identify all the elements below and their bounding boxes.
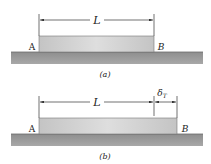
thermal-expansion-diagram: L A B (a) L δT A B (b): [0, 0, 211, 164]
point-label-A-b: A: [28, 124, 36, 134]
point-label-A-a: A: [28, 42, 36, 52]
caption-a: (a): [99, 70, 110, 79]
ground-b: [11, 134, 203, 146]
figure-a: L A B (a): [11, 14, 203, 79]
length-label-b: L: [92, 96, 100, 109]
ground-a: [11, 52, 203, 64]
bar-a: [39, 36, 154, 52]
length-label-a: L: [92, 14, 100, 27]
bar-b: [39, 118, 177, 134]
figure-b: L δT A B (b): [11, 88, 203, 161]
elongation-label-b: δT: [157, 88, 167, 99]
point-label-B-a: B: [157, 42, 165, 52]
point-label-B-b: B: [181, 124, 189, 134]
caption-b: (b): [99, 152, 110, 161]
